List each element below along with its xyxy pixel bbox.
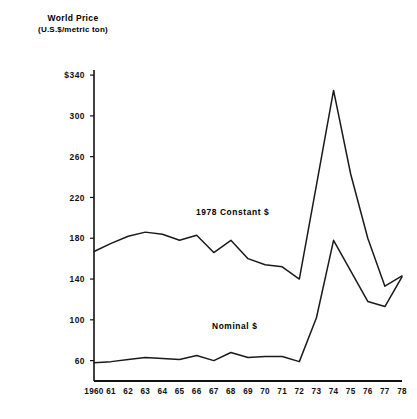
series-label-constant: 1978 Constant $ [196,207,269,217]
series-annotations: 1978 Constant $ Nominal $ [196,207,269,331]
x-axis-tick-label: 66 [192,387,202,396]
x-axis-tick-label: 62 [123,387,133,396]
x-axis-tick-label: 67 [209,387,219,396]
x-axis-tick-label: 61 [106,387,116,396]
x-axis-tick-label: 68 [226,387,236,396]
line-chart-plot: 60100140180220260300$340 196061626364656… [0,0,417,419]
y-axis-tick-label: 220 [70,193,85,203]
x-axis-ticklabels: 1960616263646566676869707172737475767778 [84,387,407,396]
x-axis-tick-label: 71 [277,387,287,396]
x-axis-tick-label: 77 [380,387,390,396]
x-axis-tick-label: 76 [363,387,373,396]
y-axis-tick-label: 100 [70,315,85,325]
y-axis-tick-label: 260 [70,152,85,162]
chart-container: World Price (U.S.$/metric ton) 601001401… [0,0,417,419]
y-axis-group: 60100140180220260300$340 [64,70,94,381]
y-axis-tick-label: 180 [70,233,85,243]
y-axis-tick-label: 140 [70,274,85,284]
series-label-nominal: Nominal $ [212,321,257,331]
x-axis-tick-label: 73 [312,387,322,396]
x-axis-tick-label: 64 [158,387,168,396]
x-axis-tick-label: 74 [329,387,339,396]
x-axis-tick-label: 72 [294,387,304,396]
y-axis-tick-label: 60 [75,356,85,366]
x-axis-tick-label: 78 [397,387,407,396]
series-line-constant [94,90,402,286]
x-axis-tick-label: 1960 [84,387,104,396]
y-axis-tick-label: 300 [70,111,85,121]
x-axis-tick-label: 69 [243,387,253,396]
y-axis-tick-label: $340 [64,70,85,80]
x-axis-group: 1960616263646566676869707172737475767778 [84,381,407,396]
x-axis-tick-label: 63 [140,387,150,396]
x-axis-tick-label: 70 [260,387,270,396]
y-axis-ticklabels: 60100140180220260300$340 [64,70,94,366]
x-axis-tick-label: 75 [346,387,356,396]
x-axis-tick-label: 65 [175,387,185,396]
